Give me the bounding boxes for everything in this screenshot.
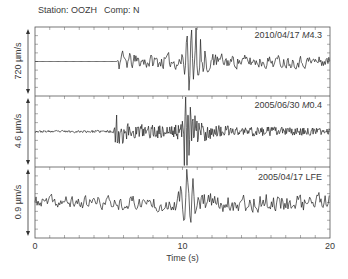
event-mag-value: LFE <box>305 172 322 182</box>
event-mag-value: 4.3 <box>309 30 322 40</box>
panel-1: 2010/04/17 M4.3 720 µm/s <box>13 27 330 94</box>
x-tick-label-0: 0 <box>32 241 37 251</box>
amplitude-scale-label-2: 4.6 µm/s <box>13 113 23 148</box>
panel-3: 2005/04/17 LFE 0.9 µm/s <box>13 167 330 238</box>
event-date: 2005/04/17 <box>258 172 306 182</box>
amplitude-scale-label-1: 720 µm/s <box>13 42 23 80</box>
x-tick-label-20: 20 <box>325 241 335 251</box>
event-mag-value: 0.4 <box>309 100 322 110</box>
seismogram-chart: Station: OOZH Comp: N 2010/04/17 M4.3 72… <box>0 0 348 279</box>
amplitude-scale-arrow-1 <box>26 29 30 94</box>
x-axis-label: Time (s) <box>166 253 199 263</box>
event-date: 2010/04/17 <box>254 30 302 40</box>
x-axis: 0 10 20 Time (s) <box>32 241 335 263</box>
station-label: Station: OOZH <box>38 5 97 15</box>
amplitude-scale-arrow-3 <box>26 169 30 236</box>
event-label-3: 2005/04/17 LFE <box>258 172 322 182</box>
panel-2: 2005/06/30 M0.4 4.6 µm/s <box>13 96 330 166</box>
event-date: 2005/06/30 <box>254 100 302 110</box>
x-tick-label-10: 10 <box>177 241 187 251</box>
event-label-2: 2005/06/30 M0.4 <box>254 100 322 110</box>
amplitude-scale-label-3: 0.9 µm/s <box>13 184 23 219</box>
event-label-1: 2010/04/17 M4.3 <box>254 30 322 40</box>
amplitude-scale-arrow-2 <box>26 98 30 165</box>
component-label: Comp: N <box>104 5 140 15</box>
